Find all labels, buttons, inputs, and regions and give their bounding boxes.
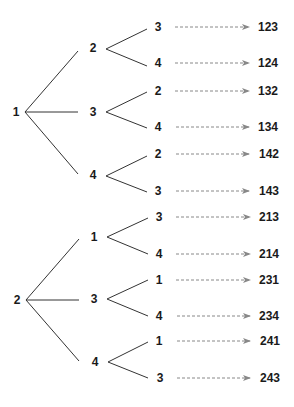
tree-1-root: 1 [13,105,20,119]
tree-2-root: 2 [14,293,21,307]
result-arrows [175,27,250,378]
tree-1-branch-1: 2 [90,41,97,55]
tree-2-edges [26,218,148,378]
leaf: 4 [155,120,162,134]
leaf: 2 [155,84,162,98]
result: 231 [259,273,279,287]
leaf: 1 [156,334,163,348]
tree-1-branch-2: 3 [90,105,97,119]
result: 243 [260,371,280,385]
tree-lines [0,0,294,407]
leaf: 4 [156,309,163,323]
tree-2-branch-1: 1 [91,230,98,244]
tree-1-edges [25,29,147,192]
leaf: 3 [157,371,164,385]
result: 124 [258,56,278,70]
result: 134 [258,120,278,134]
leaf: 4 [156,247,163,261]
leaf: 2 [155,147,162,161]
leaf: 3 [155,184,162,198]
result: 234 [259,309,279,323]
result: 214 [259,247,279,261]
leaf: 4 [155,56,162,70]
result: 123 [258,20,278,34]
result: 213 [259,210,279,224]
result: 241 [260,334,280,348]
leaf: 3 [156,210,163,224]
result: 143 [259,184,279,198]
tree-2-branch-3: 4 [92,355,99,369]
leaf: 3 [155,20,162,34]
result: 132 [258,84,278,98]
leaf: 1 [156,273,163,287]
tree-1-branch-3: 4 [90,168,97,182]
tree-2-branch-2: 3 [91,292,98,306]
result: 142 [259,147,279,161]
